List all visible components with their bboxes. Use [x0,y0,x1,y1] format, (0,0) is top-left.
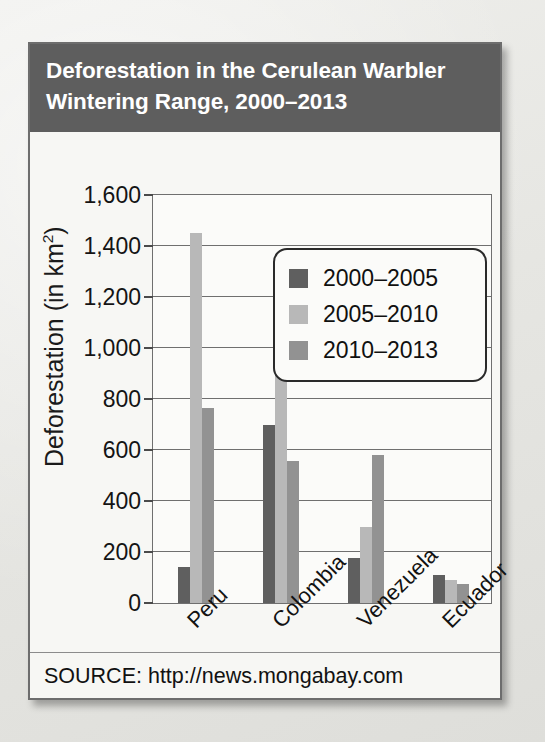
source-text: SOURCE: http://news.mongabay.com [44,664,403,689]
y-axis-tick-label: 1,400 [83,233,141,260]
legend-item: 2000–2005 [289,260,485,296]
y-axis-title-suffix: ) [40,226,68,234]
y-axis-tick-label: 1,000 [83,335,141,362]
legend-item: 2005–2010 [289,296,485,332]
legend-swatch [289,341,308,360]
bar [433,575,445,603]
bar [360,527,372,604]
y-axis-tick-mark [144,245,153,247]
legend-label: 2005–2010 [323,301,438,328]
chart-card: Deforestation in the Cerulean Warbler Wi… [28,42,502,700]
y-axis-title: Deforestation (in km2) [39,182,68,512]
legend-swatch [289,305,308,324]
y-axis-tick-mark [144,347,153,349]
y-axis-tick-mark [144,500,153,502]
bar-group [153,195,238,603]
y-axis-tick-label: 600 [103,437,141,464]
bar [263,425,275,604]
y-axis-title-superscript: 2 [39,235,56,244]
chart-legend: 2000–20052005–20102010–2013 [273,248,487,382]
legend-label: 2010–2013 [323,337,438,364]
chart-title-line-2: Wintering Range, 2000–2013 [46,86,484,117]
bar [190,233,202,603]
source-divider [30,652,500,654]
y-axis-tick-label: 1,600 [83,182,141,209]
y-axis-tick-label: 400 [103,488,141,515]
y-axis-tick-mark [144,449,153,451]
y-axis-tick-label: 1,200 [83,284,141,311]
legend-item: 2010–2013 [289,332,485,368]
chart-title-bar: Deforestation in the Cerulean Warbler Wi… [30,44,500,132]
bar [202,408,214,603]
legend-label: 2000–2005 [323,265,438,292]
y-axis-tick-label: 200 [103,539,141,566]
y-axis-tick-mark [144,296,153,298]
y-axis-tick-mark [144,398,153,400]
y-axis-tick-mark [144,602,153,604]
bar [372,455,384,603]
y-axis-tick-label: 0 [128,590,141,617]
y-axis-tick-label: 800 [103,386,141,413]
y-axis-tick-mark [144,551,153,553]
legend-swatch [289,269,308,288]
bar [287,461,299,603]
bar [178,567,190,603]
chart-title-line-1: Deforestation in the Cerulean Warbler [46,55,484,86]
y-axis-title-text: Deforestation (in km [40,243,68,467]
page-background: Deforestation in the Cerulean Warbler Wi… [0,0,545,742]
y-axis-tick-mark [144,194,153,196]
chart-region: Deforestation (in km2) 02004006008001,00… [30,132,500,702]
